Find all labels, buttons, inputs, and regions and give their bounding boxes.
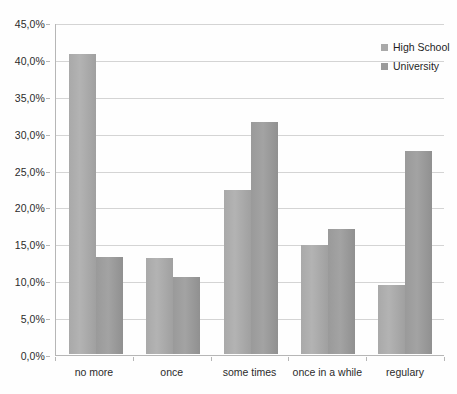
y-axis-tick-mark (46, 172, 50, 173)
x-axis-tick-mark (444, 357, 445, 361)
bar-high-school (378, 285, 405, 354)
y-axis-tick-label: 45,0% (15, 18, 45, 30)
bar-chart: 0,0%5,0%10,0%15,0%20,0%25,0%30,0%35,0%40… (0, 0, 457, 394)
bar-group (212, 24, 289, 354)
x-axis-category-label: some times (211, 357, 289, 387)
bar-university (405, 151, 432, 354)
x-axis-tick-mark (133, 357, 134, 361)
legend-label: High School (393, 41, 450, 53)
y-axis-tick-label: 20,0% (15, 202, 45, 214)
y-axis-tick-label: 30,0% (15, 129, 45, 141)
x-axis-category-label: regulary (366, 357, 444, 387)
x-axis-tick-mark (366, 357, 367, 361)
legend-item[interactable]: High School (381, 41, 457, 53)
y-axis-tick-mark (46, 356, 50, 357)
y-axis-tick-label: 15,0% (15, 239, 45, 251)
bar-high-school (69, 54, 96, 354)
y-axis-tick-label: 0,0% (21, 350, 45, 362)
x-axis-category-label: no more (55, 357, 133, 387)
bar-high-school (146, 258, 173, 354)
y-axis-tick-mark (46, 245, 50, 246)
x-axis-category-label: once in a while (288, 357, 366, 387)
y-axis-tick-mark (46, 282, 50, 283)
y-axis-tick-label: 5,0% (21, 313, 45, 325)
x-axis-tick-mark (288, 357, 289, 361)
y-axis-tick-mark (46, 135, 50, 136)
y-axis-tick-mark (46, 61, 50, 62)
bar-group (289, 24, 366, 354)
chart-legend: High SchoolUniversity (381, 41, 457, 79)
y-axis-tick-mark (46, 24, 50, 25)
legend-item[interactable]: University (381, 60, 457, 72)
bar-university (173, 277, 200, 354)
x-axis-tick-mark (55, 357, 56, 361)
legend-swatch-icon (381, 63, 388, 70)
y-axis-tick-label: 10,0% (15, 276, 45, 288)
bar-high-school (301, 245, 328, 354)
bar-university (96, 257, 123, 354)
y-axis-tick-mark (46, 319, 50, 320)
bar-university (251, 122, 278, 354)
y-axis-tick-label: 40,0% (15, 55, 45, 67)
legend-label: University (393, 60, 439, 72)
bar-group (134, 24, 211, 354)
y-axis-tick-label: 35,0% (15, 92, 45, 104)
x-axis-tick-mark (211, 357, 212, 361)
y-axis-tick-mark (46, 98, 50, 99)
bar-group (57, 24, 134, 354)
y-axis-tick-mark (46, 208, 50, 209)
x-axis-category-label: once (133, 357, 211, 387)
bar-high-school (224, 190, 251, 354)
bar-university (328, 229, 355, 354)
legend-swatch-icon (381, 44, 388, 51)
y-axis: 0,0%5,0%10,0%15,0%20,0%25,0%30,0%35,0%40… (0, 24, 50, 356)
y-axis-tick-label: 25,0% (15, 166, 45, 178)
x-axis: no moreoncesome timesonce in a whileregu… (55, 357, 444, 387)
